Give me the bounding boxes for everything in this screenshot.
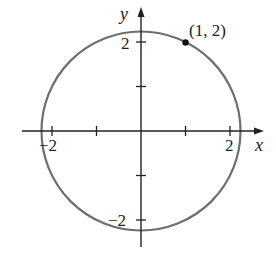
x-tick-label-neg2: −2 <box>39 136 57 155</box>
y-axis-arrow-icon <box>138 7 145 17</box>
x-axis <box>22 126 264 136</box>
y-axis <box>136 7 146 247</box>
y-tick-label-neg2: −2 <box>108 211 126 230</box>
x-axis-arrow-icon <box>254 128 264 135</box>
y-axis-label: y <box>118 4 128 24</box>
point-marker <box>182 39 188 45</box>
x-axis-label: x <box>254 135 263 155</box>
y-tick-label-2: 2 <box>121 34 130 53</box>
circle-diagram: (1, 2) y x 2 −2 −2 2 <box>0 0 276 270</box>
point-label: (1, 2) <box>189 21 226 40</box>
x-tick-label-2: 2 <box>225 136 234 155</box>
